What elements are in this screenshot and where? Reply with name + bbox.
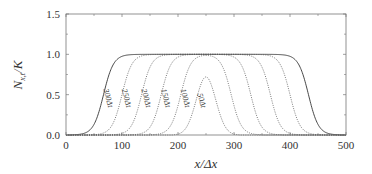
curve-label: 300Δt [101, 87, 115, 109]
ticks-group: 01002003004005000.00.51.01.5 [46, 8, 355, 151]
y-axis-label-tail: /K [10, 59, 25, 74]
y-tick-label: 0.5 [46, 89, 60, 101]
y-axis-label: Nx,t/K [10, 59, 27, 90]
x-tick-label: 200 [170, 139, 187, 151]
y-tick-label: 0.0 [46, 129, 60, 141]
x-tick-label: 300 [226, 139, 243, 151]
x-tick-label: 0 [63, 139, 69, 151]
chart: 01002003004005000.00.51.01.5 300Δt250Δt2… [0, 0, 372, 174]
x-tick-label: 500 [338, 139, 355, 151]
x-tick-label: 400 [282, 139, 299, 151]
plot-frame [66, 14, 346, 135]
curve-label: 250Δt [120, 88, 134, 109]
svg-text:Nx,t/K: Nx,t/K [10, 59, 27, 90]
curve-label: 150Δt [159, 88, 173, 109]
curve-label: 100Δt [179, 88, 193, 109]
curve-labels-group: 300Δt250Δt200Δt150Δt100Δt50Δt [101, 87, 208, 110]
curve-label: 200Δt [139, 88, 153, 109]
y-tick-label: 1.0 [46, 48, 60, 60]
y-tick-label: 1.5 [46, 8, 60, 20]
x-tick-label: 100 [114, 139, 131, 151]
x-axis-label: x/Δx [194, 156, 218, 171]
curve-label: 50Δt [195, 92, 208, 109]
